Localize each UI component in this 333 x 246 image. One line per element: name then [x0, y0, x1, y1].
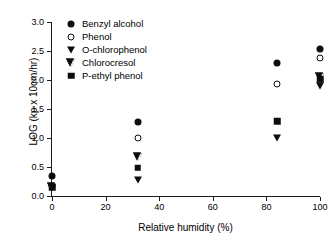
- data-point: [274, 118, 281, 125]
- legend-label: O-chlorophenol: [78, 45, 147, 55]
- y-tick-mark: [47, 80, 51, 81]
- legend-marker: [64, 17, 78, 30]
- legend-marker: [64, 43, 78, 56]
- legend-label: Phenol: [78, 32, 112, 42]
- data-point: [274, 60, 281, 67]
- marker-filled-square: [68, 72, 75, 79]
- x-tick-mark: [52, 197, 53, 201]
- chart-legend: Benzyl alcoholPhenolO-chlorophenolChloro…: [64, 17, 204, 82]
- y-tick-mark: [47, 196, 51, 197]
- legend-label: Benzyl alcohol: [78, 19, 143, 29]
- x-axis-label: Relative humidity (%): [51, 222, 320, 233]
- y-tick-mark: [47, 22, 51, 23]
- marker-open-triangle-down: [67, 59, 75, 66]
- x-tick-mark: [320, 197, 321, 201]
- data-point: [134, 153, 142, 160]
- legend-marker: [64, 56, 78, 69]
- data-point: [317, 45, 324, 52]
- x-tick-label: 0: [37, 203, 67, 212]
- x-tick-mark: [266, 197, 267, 201]
- y-tick-mark: [47, 51, 51, 52]
- x-tick-mark: [106, 197, 107, 201]
- x-tick-label: 20: [91, 203, 121, 212]
- legend-label: Chlorocresol: [78, 58, 135, 68]
- y-tick-mark: [47, 109, 51, 110]
- data-point: [49, 184, 56, 191]
- data-point: [316, 83, 324, 90]
- marker-filled-triangle-down: [67, 46, 75, 53]
- data-point: [135, 164, 142, 171]
- data-point: [49, 173, 56, 180]
- y-tick-mark: [47, 167, 51, 168]
- marker-filled-circle: [68, 20, 75, 27]
- legend-label: P-ethyl phenol: [78, 71, 143, 81]
- x-tick-label: 100: [305, 203, 333, 212]
- data-point: [317, 54, 324, 61]
- x-axis-line: [51, 196, 320, 197]
- scatter-chart-figure: 0.00.51.01.52.02.53.0 020406080100 Relat…: [0, 0, 333, 246]
- legend-item-p-ethyl-phenol: P-ethyl phenol: [64, 69, 204, 82]
- data-point: [134, 176, 142, 183]
- legend-item-o-chlorophenol: O-chlorophenol: [64, 43, 204, 56]
- legend-item-phenol: Phenol: [64, 30, 204, 43]
- legend-item-benzyl-alcohol: Benzyl alcohol: [64, 17, 204, 30]
- data-point: [134, 118, 141, 125]
- data-point: [317, 76, 324, 83]
- x-tick-label: 40: [144, 203, 174, 212]
- y-tick-label: 0.0: [31, 192, 44, 201]
- x-tick-mark: [159, 197, 160, 201]
- y-axis-label: LOG (kp x 10cm/hr): [28, 17, 39, 187]
- legend-marker: [64, 30, 78, 43]
- x-tick-label: 80: [251, 203, 281, 212]
- x-tick-label: 60: [198, 203, 228, 212]
- y-tick-mark: [47, 138, 51, 139]
- marker-open-circle: [68, 33, 75, 40]
- legend-marker: [64, 69, 78, 82]
- x-tick-mark: [213, 197, 214, 201]
- data-point: [273, 135, 281, 142]
- legend-item-chlorocresol: Chlorocresol: [64, 56, 204, 69]
- data-point: [134, 135, 141, 142]
- data-point: [274, 81, 281, 88]
